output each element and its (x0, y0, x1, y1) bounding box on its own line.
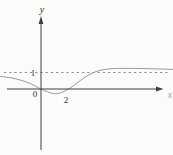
figure-canvas: y x 1 0 2 (0, 0, 173, 155)
function-graph-figure: y x 1 0 2 (0, 0, 173, 155)
y-axis-arrowhead (39, 16, 44, 24)
y-tick-label-1: 1 (31, 68, 36, 78)
x-tick-label-2: 2 (64, 95, 69, 105)
x-axis-label: x (167, 89, 173, 100)
x-axis-arrowhead (156, 87, 164, 92)
y-axis-label: y (39, 4, 45, 15)
origin-label: 0 (33, 89, 38, 99)
